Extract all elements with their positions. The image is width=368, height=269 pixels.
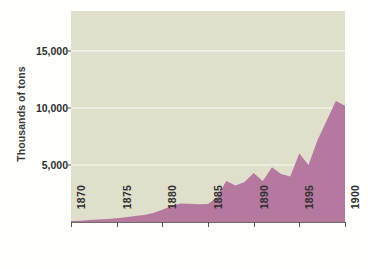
x-tick-label-1875: 1875 [121,185,133,229]
x-tick-mark-1875 [117,222,118,227]
y-tick-label-5000: 5,000 [14,159,68,171]
x-tick-label-1890: 1890 [258,185,270,229]
x-tick-mark-1895 [299,222,300,227]
y-tick-label-15000: 15,000 [14,45,68,57]
area-chart: Thousands of tons 5,00010,00015,000 1870… [0,0,368,269]
x-tick-mark-1870 [71,222,72,227]
x-tick-mark-1885 [208,222,209,227]
x-tick-label-1885: 1885 [212,185,224,229]
y-tick-label-10000: 10,000 [14,102,68,114]
x-tick-label-1880: 1880 [166,185,178,229]
x-tick-mark-1880 [162,222,163,227]
x-tick-mark-1900 [345,222,346,227]
y-axis-ticks: 5,00010,00015,000 [10,0,68,269]
gridlines [71,51,345,165]
x-tick-mark-1890 [254,222,255,227]
x-tick-label-1900: 1900 [349,185,361,229]
x-tick-label-1895: 1895 [303,185,315,229]
x-tick-label-1870: 1870 [75,185,87,229]
